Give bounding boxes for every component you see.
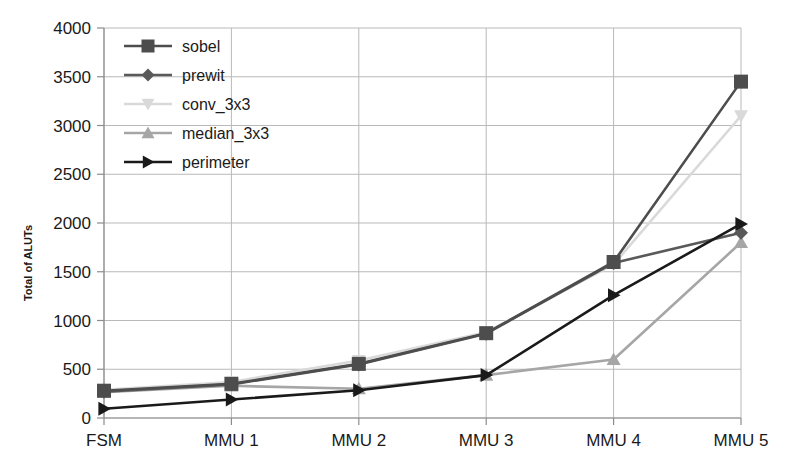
x-category-label: MMU 5: [714, 431, 769, 450]
y-axis-tick-labels: 05001000150020002500300035004000: [53, 19, 91, 428]
y-tick-label: 1000: [53, 312, 91, 331]
series-line: [104, 233, 741, 392]
y-axis-title-text: Total of ALUTs: [22, 225, 34, 301]
data-point-marker-square: [97, 384, 111, 398]
legend-label: prewit: [182, 67, 225, 84]
legend-item-conv_3x3[interactable]: conv_3x3: [124, 96, 251, 114]
data-point-marker-square: [479, 326, 493, 340]
data-point-marker-square: [352, 357, 366, 371]
chart-legend: sobelprewitconv_3x3median_3x3perimeter: [124, 38, 269, 171]
chart-container: 05001000150020002500300035004000 FSMMMU …: [0, 0, 785, 473]
data-point-marker-triangle-right: [226, 392, 239, 406]
series-prewit: [97, 226, 748, 399]
legend-item-median_3x3[interactable]: median_3x3: [124, 125, 269, 143]
x-category-label: MMU 3: [459, 431, 514, 450]
data-point-marker-square: [607, 255, 621, 269]
y-tick-label: 3500: [53, 68, 91, 87]
line-chart: 05001000150020002500300035004000 FSMMMU …: [0, 0, 785, 473]
x-category-label: MMU 4: [586, 431, 641, 450]
data-point-marker-diamond: [142, 69, 155, 82]
data-point-marker-triangle-right: [143, 156, 155, 169]
y-tick-label: 1500: [53, 263, 91, 282]
series-sobel: [97, 75, 748, 398]
legend-label: median_3x3: [182, 125, 269, 143]
legend-item-sobel[interactable]: sobel: [124, 38, 220, 55]
gridlines: [104, 28, 741, 418]
y-axis-title: Total of ALUTs: [22, 225, 34, 301]
y-tick-label: 2000: [53, 214, 91, 233]
data-point-marker-square: [734, 75, 748, 89]
legend-label: conv_3x3: [182, 96, 251, 114]
data-point-marker-square: [142, 40, 155, 53]
legend-label: perimeter: [182, 154, 250, 171]
legend-item-prewit[interactable]: prewit: [124, 67, 225, 84]
data-point-marker-square: [224, 377, 238, 391]
legend-label: sobel: [182, 38, 220, 55]
x-category-label: MMU 1: [204, 431, 259, 450]
x-axis-category-labels: FSMMMU 1MMU 2MMU 3MMU 4MMU 5: [86, 431, 768, 450]
y-tick-label: 500: [63, 360, 91, 379]
legend-item-perimeter[interactable]: perimeter: [124, 154, 250, 171]
y-tick-label: 4000: [53, 19, 91, 38]
x-category-label: MMU 2: [331, 431, 386, 450]
series-median_3x3: [97, 236, 748, 398]
y-tick-label: 0: [82, 409, 91, 428]
data-point-marker-triangle-right: [98, 402, 111, 416]
data-point-marker-triangle-right: [608, 288, 621, 302]
x-category-label: FSM: [86, 431, 122, 450]
y-tick-label: 3000: [53, 117, 91, 136]
y-tick-label: 2500: [53, 165, 91, 184]
